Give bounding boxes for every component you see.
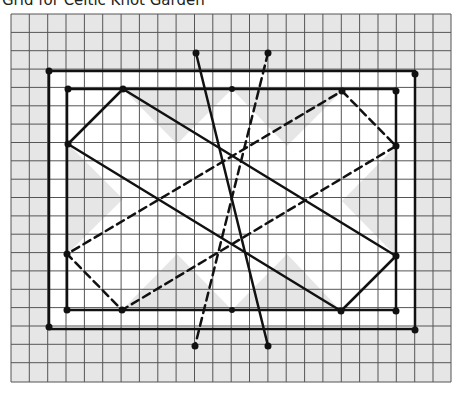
knot-garden-grid [0,0,462,396]
